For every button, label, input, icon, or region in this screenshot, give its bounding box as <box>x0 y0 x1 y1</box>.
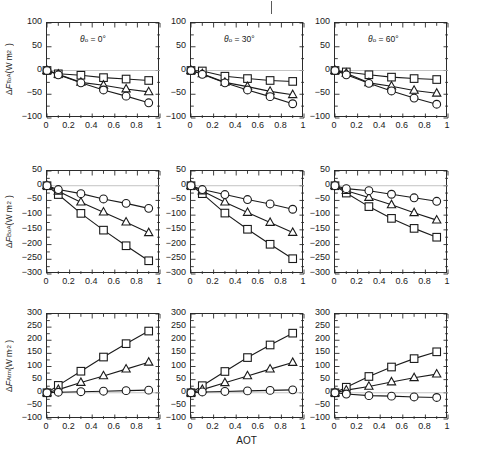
y-tick-label-row3-col3-6: 0 <box>298 386 330 396</box>
y-tick-label-row3-col1-7: −50 <box>10 399 42 409</box>
y-tick-label-row3-col3-1: 250 <box>298 320 330 330</box>
x-tick-label-row1-col1-5: 1 <box>145 120 173 130</box>
plot-area-row3-col1 <box>46 313 159 418</box>
plot-area-row3-col3 <box>334 313 447 418</box>
y-tick-label-row2-col2-1: 0 <box>154 179 186 189</box>
plot-svg-row2-col2 <box>191 171 304 274</box>
x-tick-label-row3-col3-5: 1 <box>433 421 461 431</box>
y-tick-label-row3-col2-0: 300 <box>154 307 186 317</box>
x-tick-label-row3-col2-5: 1 <box>289 421 317 431</box>
x-tick-label-row2-col1-5: 1 <box>145 276 173 286</box>
y-tick-label-row1-col1-1: 50 <box>10 40 42 50</box>
y-tick-label-row2-col1-0: 50 <box>10 164 42 174</box>
plot-area-row2-col2 <box>190 170 303 273</box>
y-tick-label-row2-col3-4: −150 <box>298 223 330 233</box>
y-tick-label-row3-col2-4: 100 <box>154 360 186 370</box>
y-tick-label-row3-col1-4: 100 <box>10 360 42 370</box>
y-tick-label-row3-col2-6: 0 <box>154 386 186 396</box>
panel-grid: ΔFToA(W m−2)100500−50−10000.20.40.60.81θ… <box>0 0 479 467</box>
y-tick-label-row3-col1-0: 300 <box>10 307 42 317</box>
y-tick-label-row1-col2-0: 100 <box>154 16 186 26</box>
x-tick-label-row2-col3-5: 1 <box>433 276 461 286</box>
plot-svg-row2-col3 <box>335 171 448 274</box>
y-tick-label-row1-col3-0: 100 <box>298 16 330 26</box>
y-tick-label-row2-col1-3: −100 <box>10 208 42 218</box>
figure-canvas: ΔFToA(W m−2)100500−50−10000.20.40.60.81θ… <box>0 0 479 467</box>
plot-svg-row3-col2 <box>191 314 304 419</box>
y-tick-label-row1-col3-3: −50 <box>298 87 330 97</box>
plot-area-row2-col3 <box>334 170 447 273</box>
y-tick-label-row3-col3-7: −50 <box>298 399 330 409</box>
x-tick-label-row1-col2-5: 1 <box>289 120 317 130</box>
plot-svg-row3-col1 <box>47 314 160 419</box>
y-tick-label-row2-col1-5: −200 <box>10 238 42 248</box>
y-tick-label-row3-col1-1: 250 <box>10 320 42 330</box>
y-tick-label-row1-col2-3: −50 <box>154 87 186 97</box>
y-tick-label-row2-col1-4: −150 <box>10 223 42 233</box>
y-tick-label-row3-col2-7: −50 <box>154 399 186 409</box>
y-tick-label-row1-col1-3: −50 <box>10 87 42 97</box>
plot-area-row3-col2 <box>190 313 303 418</box>
y-tick-label-row3-col1-6: 0 <box>10 386 42 396</box>
y-tick-label-row3-col2-1: 250 <box>154 320 186 330</box>
x-tick-label-row2-col2-5: 1 <box>289 276 317 286</box>
y-tick-label-row3-col3-4: 100 <box>298 360 330 370</box>
x-tick-label-row3-col1-5: 1 <box>145 421 173 431</box>
y-tick-label-row3-col2-5: 50 <box>154 373 186 383</box>
y-tick-label-row2-col3-6: −250 <box>298 252 330 262</box>
y-tick-label-row1-col3-2: 0 <box>298 64 330 74</box>
y-tick-label-row3-col2-3: 150 <box>154 346 186 356</box>
y-tick-label-row1-col1-0: 100 <box>10 16 42 26</box>
y-tick-label-row2-col1-6: −250 <box>10 252 42 262</box>
x-tick-label-row1-col3-5: 1 <box>433 120 461 130</box>
y-tick-label-row3-col3-5: 50 <box>298 373 330 383</box>
x-axis-title: AOT <box>190 435 303 446</box>
plot-svg-row2-col1 <box>47 171 160 274</box>
y-tick-label-row3-col3-2: 200 <box>298 333 330 343</box>
y-tick-label-row3-col1-5: 50 <box>10 373 42 383</box>
y-tick-label-row2-col2-5: −200 <box>154 238 186 248</box>
y-tick-label-row2-col2-3: −100 <box>154 208 186 218</box>
y-tick-label-row3-col1-2: 200 <box>10 333 42 343</box>
y-tick-label-row2-col3-5: −200 <box>298 238 330 248</box>
plot-svg-row3-col3 <box>335 314 448 419</box>
y-tick-label-row1-col3-1: 50 <box>298 40 330 50</box>
y-tick-label-row2-col3-3: −100 <box>298 208 330 218</box>
y-tick-label-row1-col2-1: 50 <box>154 40 186 50</box>
y-tick-label-row3-col2-2: 200 <box>154 333 186 343</box>
y-tick-label-row2-col1-1: 0 <box>10 179 42 189</box>
panel-title-col3: θo = 60° <box>368 34 399 44</box>
y-tick-label-row3-col3-0: 300 <box>298 307 330 317</box>
y-tick-label-row1-col2-2: 0 <box>154 64 186 74</box>
y-tick-label-row2-col3-2: −50 <box>298 193 330 203</box>
y-tick-label-row2-col2-0: 50 <box>154 164 186 174</box>
y-tick-label-row2-col2-2: −50 <box>154 193 186 203</box>
y-tick-label-row2-col2-6: −250 <box>154 252 186 262</box>
y-tick-label-row2-col3-1: 0 <box>298 179 330 189</box>
y-tick-label-row1-col1-2: 0 <box>10 64 42 74</box>
y-tick-label-row3-col3-3: 150 <box>298 346 330 356</box>
y-tick-label-row2-col1-2: −50 <box>10 193 42 203</box>
y-tick-label-row2-col2-4: −150 <box>154 223 186 233</box>
plot-area-row2-col1 <box>46 170 159 273</box>
panel-title-col1: θo = 0° <box>80 34 106 44</box>
y-tick-label-row3-col1-3: 150 <box>10 346 42 356</box>
y-tick-label-row2-col3-0: 50 <box>298 164 330 174</box>
panel-title-col2: θo = 30° <box>224 34 255 44</box>
